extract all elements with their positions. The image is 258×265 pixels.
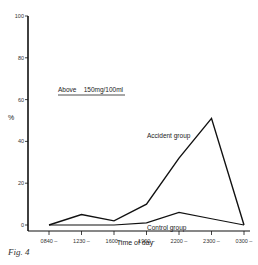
x-tick-label: 0300 –: [236, 238, 254, 244]
figure-caption: Fig. 4: [8, 247, 30, 257]
y-tick-label: 40: [18, 138, 24, 144]
chart: 020406080100 0840 –1230 –1600 –1900 –220…: [0, 0, 258, 265]
y-tick-label: 0: [21, 222, 24, 228]
y-tick-label: 60: [18, 97, 24, 103]
x-axis-title: Time of day: [117, 239, 154, 247]
x-tick-label: 0840 –: [41, 238, 59, 244]
y-tick-label: 100: [15, 13, 24, 19]
y-tick-label: 80: [18, 55, 24, 61]
x-tick-label: 2300 –: [203, 238, 221, 244]
y-axis-title: %: [8, 114, 14, 121]
legend-control-group: Control group: [147, 224, 187, 232]
x-tick-label: 2200 –: [171, 238, 189, 244]
y-tick-label: 20: [18, 180, 24, 186]
x-tick-label: 1230 –: [73, 238, 91, 244]
legend-accident-group: Accident group: [147, 132, 191, 140]
threshold-annotation: Above 150mg/100ml: [58, 86, 124, 94]
